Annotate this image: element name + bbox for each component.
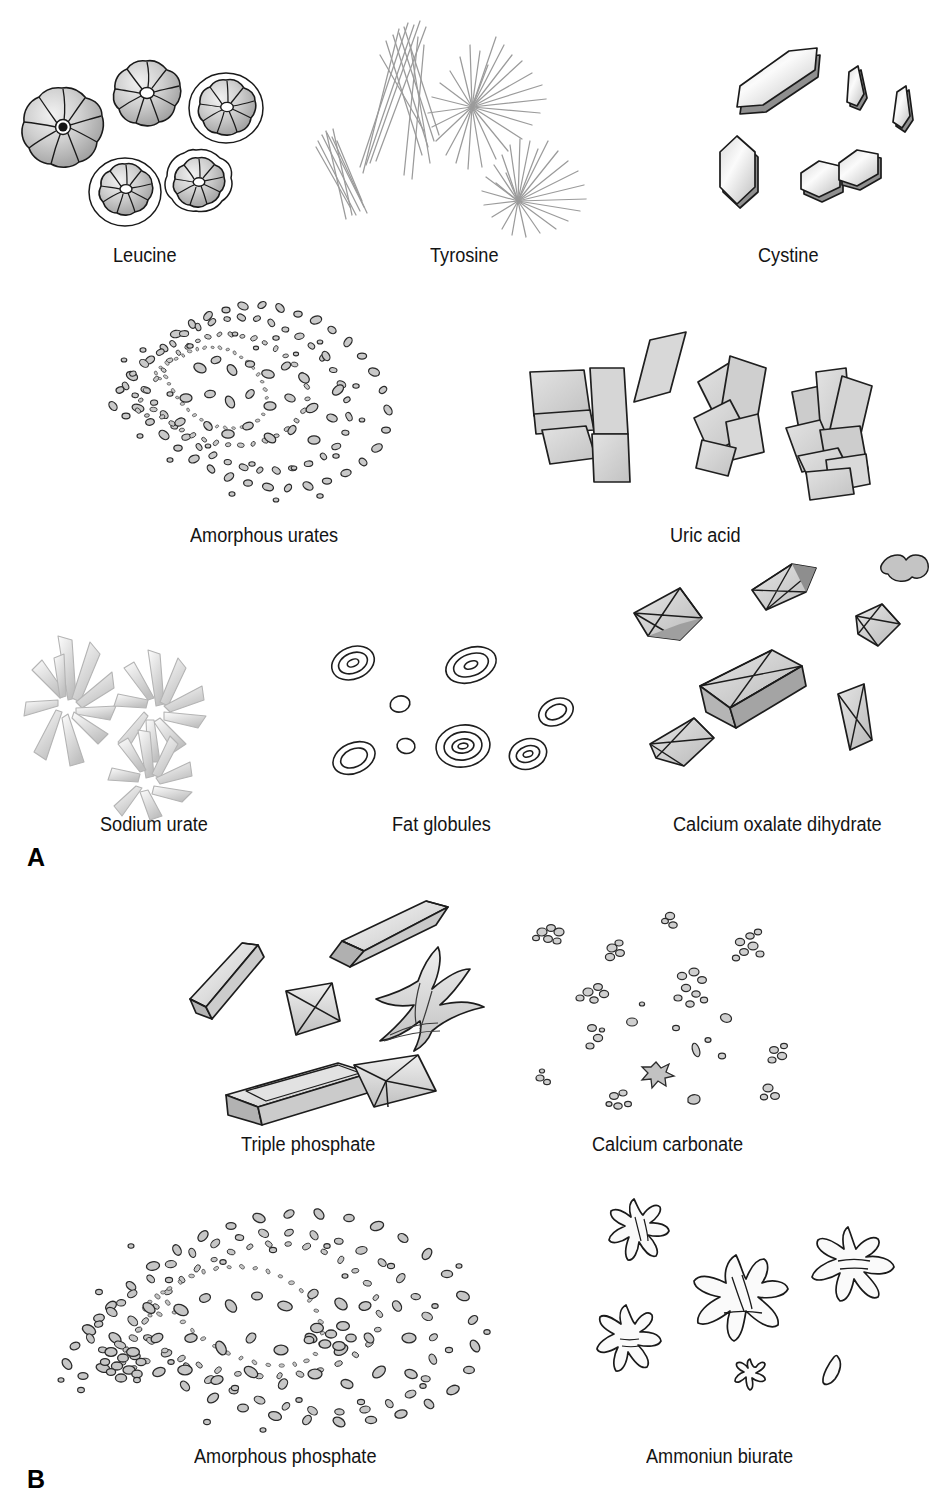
urine-sediment-crystal-figure: Leucine Tyrosine Cystine Amorphous urate… <box>0 0 934 1493</box>
triple-phosphate-illustration <box>170 895 520 1125</box>
sodium-urate-illustration <box>20 610 250 810</box>
panel-letter-a: A <box>27 843 45 872</box>
cystine-illustration <box>700 40 934 235</box>
leucine-illustration <box>10 50 260 240</box>
specimen-label-triple-phosphate: Triple phosphate <box>241 1133 375 1156</box>
specimen-label-calcium-carbonate: Calcium carbonate <box>592 1133 743 1156</box>
calcium-carbonate-illustration <box>530 900 820 1130</box>
panel-letter-b: B <box>27 1465 45 1493</box>
specimen-label-ammonium-biurate: Ammoniun biurate <box>646 1445 793 1468</box>
amorphous-phosphate-illustration <box>45 1180 540 1430</box>
fat-globules-illustration <box>330 630 605 795</box>
calcium-oxalate-dihydrate-illustration <box>610 548 934 803</box>
specimen-label-leucine: Leucine <box>113 244 177 267</box>
tyrosine-illustration <box>300 15 600 240</box>
specimen-label-amorphous-urates: Amorphous urates <box>190 524 338 547</box>
uric-acid-illustration <box>520 330 890 520</box>
specimen-label-uric-acid: Uric acid <box>670 524 741 547</box>
specimen-label-fat-globules: Fat globules <box>392 813 491 836</box>
specimen-label-sodium-urate: Sodium urate <box>100 813 208 836</box>
specimen-label-cystine: Cystine <box>758 244 818 267</box>
specimen-label-calcium-oxalate-dihydrate: Calcium oxalate dihydrate <box>673 813 882 836</box>
specimen-label-tyrosine: Tyrosine <box>430 244 499 267</box>
ammonium-biurate-illustration <box>580 1185 920 1400</box>
specimen-label-amorphous-phosphate: Amorphous phosphate <box>194 1445 376 1468</box>
amorphous-urates-illustration <box>80 290 450 515</box>
